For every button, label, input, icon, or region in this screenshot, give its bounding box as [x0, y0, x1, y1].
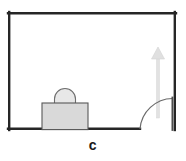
direction-arrow: [152, 47, 165, 118]
arrow-shaft: [157, 56, 160, 118]
suitcase: [42, 89, 88, 130]
suitcase-handle: [55, 89, 76, 105]
suitcase-body: [42, 103, 88, 130]
figure-caption: c: [0, 136, 186, 154]
room-walls: [8, 12, 176, 130]
arrow-head-icon: [152, 47, 165, 59]
figure-root: c: [0, 0, 186, 161]
